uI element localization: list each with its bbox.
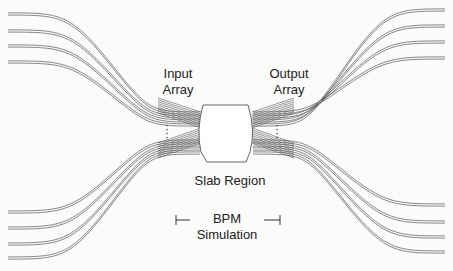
slab-region-label: Slab Region bbox=[180, 173, 280, 189]
waveguide bbox=[8, 150, 200, 245]
bpm-label-line2: Simulation bbox=[190, 227, 264, 243]
input-array-label-line1: Input bbox=[148, 66, 208, 82]
waveguide bbox=[8, 154, 200, 259]
waveguide bbox=[253, 152, 445, 251]
awg-diagram: Input Array Output Array Slab Region BPM… bbox=[0, 0, 453, 271]
input-array-label: Input Array bbox=[148, 66, 208, 98]
output-array-label-line2: Array bbox=[257, 82, 321, 98]
taper-line bbox=[252, 98, 294, 112]
waveguide bbox=[253, 140, 445, 204]
taper-line bbox=[252, 143, 294, 158]
taper-line bbox=[252, 130, 294, 145]
slab-region-shape bbox=[199, 105, 253, 162]
input-ellipsis-icon: ···· bbox=[164, 124, 170, 140]
bpm-simulation-label: BPM Simulation bbox=[190, 211, 264, 243]
taper-line bbox=[252, 132, 294, 147]
waveguide bbox=[253, 144, 445, 221]
input-array-label-line2: Array bbox=[148, 82, 208, 98]
bpm-label-line1: BPM bbox=[190, 211, 264, 227]
taper-line bbox=[252, 128, 294, 143]
waveguide bbox=[253, 150, 445, 238]
taper-line bbox=[158, 98, 201, 112]
output-ellipsis-icon: ···· bbox=[274, 124, 280, 140]
output-array-label-line1: Output bbox=[257, 66, 321, 82]
waveguide bbox=[8, 146, 200, 229]
output-array-label: Output Array bbox=[257, 66, 321, 98]
waveguide bbox=[8, 15, 200, 114]
waveguide bbox=[253, 146, 445, 223]
